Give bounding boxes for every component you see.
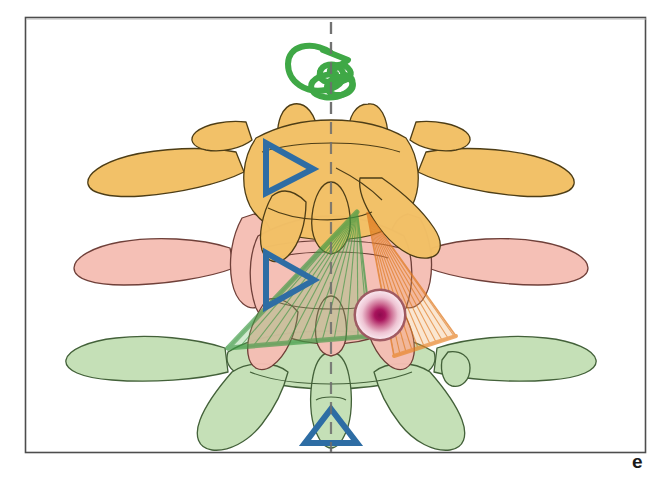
target-lesion-circle (354, 289, 407, 342)
inferior-left-transverse-process (66, 336, 228, 381)
inferior-right-facet (441, 352, 470, 387)
figure-root: e (0, 0, 669, 480)
panel-label: e (632, 452, 643, 471)
anatomical-figure-svg (0, 0, 669, 480)
target-gradient-core (356, 291, 404, 339)
